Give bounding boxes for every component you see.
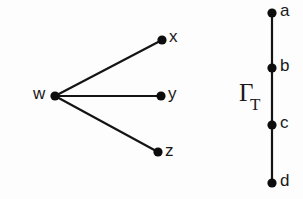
graph-node-label-a: a [280, 1, 290, 20]
graph-diagram-canvas: wxyzabcd ΓT [0, 0, 303, 199]
graph-node-label-z: z [165, 141, 174, 160]
graph-node-label-x: x [169, 27, 178, 46]
graph-node-label-d: d [280, 171, 289, 190]
graph-node-label-c: c [280, 113, 289, 132]
graph-node-b [267, 63, 276, 72]
graph-node-label-y: y [168, 84, 177, 103]
graph-node-x [157, 35, 166, 44]
graph-node-z [153, 147, 162, 156]
figure-root: wxyzabcd ΓT [0, 0, 303, 199]
graph-name-subscript-path-graph: T [250, 95, 261, 114]
graph-node-c [267, 120, 276, 129]
graph-node-label-b: b [280, 56, 289, 75]
graph-edge-w-x [55, 40, 162, 96]
graph-node-d [267, 178, 276, 187]
graph-node-w [50, 91, 59, 100]
graph-node-y [156, 91, 165, 100]
graph-names-layer: ΓT [239, 79, 261, 114]
graph-node-a [267, 8, 276, 17]
graph-node-label-w: w [32, 84, 46, 103]
graph-edge-w-z [55, 96, 158, 152]
